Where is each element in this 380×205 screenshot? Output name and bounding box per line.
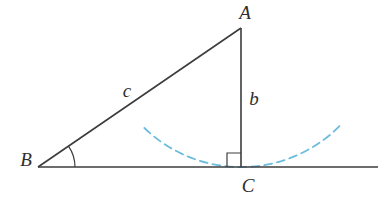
side-b-label: b	[249, 88, 259, 109]
compass-arc	[144, 125, 341, 167]
vertex-c-label: C	[242, 175, 255, 196]
right-angle-marker	[227, 153, 241, 167]
angle-arc-b	[69, 146, 76, 167]
vertex-b-label: B	[20, 149, 32, 170]
triangle-diagram: A B C c b	[0, 0, 380, 205]
figure: A B C c b	[0, 0, 380, 205]
vertex-a-label: A	[237, 2, 251, 23]
side-c-label: c	[123, 80, 132, 101]
